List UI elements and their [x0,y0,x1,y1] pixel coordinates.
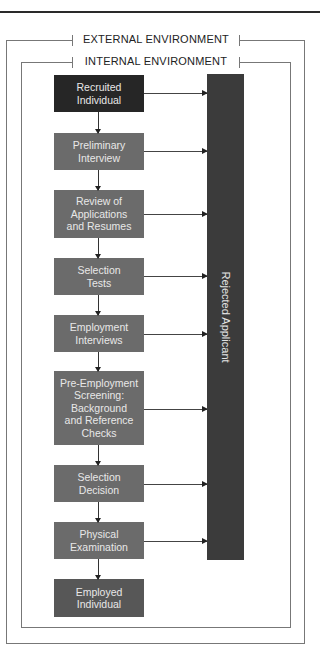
arrow-down-icon [98,559,99,579]
step-employment-interviews: Employment Interviews [54,315,144,352]
arrow-right-icon [144,409,207,410]
rejected-applicant-bar: Rejected Applicant [207,74,244,560]
step-preliminary-interview: Preliminary Interview [54,133,144,170]
step-selection-tests: Selection Tests [54,258,144,295]
arrow-down-icon [98,502,99,522]
arrow-down-icon [98,352,99,371]
internal-environment-label: INTERNAL ENVIRONMENT [72,55,240,67]
top-rule [0,11,320,13]
arrow-right-icon [144,541,207,542]
step-recruited-individual: Recruited Individual [54,75,144,112]
arrow-right-icon [144,484,207,485]
step-employed-individual: Employed Individual [54,579,144,617]
arrow-down-icon [98,445,99,465]
arrow-down-icon [98,295,99,315]
step-review-applications: Review of Applications and Resumes [54,190,144,238]
arrow-right-icon [144,151,207,152]
step-physical-examination: Physical Examination [54,522,144,559]
arrow-right-icon [144,334,207,335]
arrow-down-icon [98,170,99,190]
arrow-down-icon [98,112,99,133]
step-selection-decision: Selection Decision [54,465,144,502]
arrow-right-icon [144,214,207,215]
step-pre-employment-screening: Pre-Employment Screening: Background and… [54,371,144,445]
arrow-down-icon [98,238,99,258]
rejected-applicant-label: Rejected Applicant [220,271,232,362]
arrow-right-icon [144,93,207,94]
external-environment-label: EXTERNAL ENVIRONMENT [72,33,240,45]
arrow-right-icon [144,276,207,277]
